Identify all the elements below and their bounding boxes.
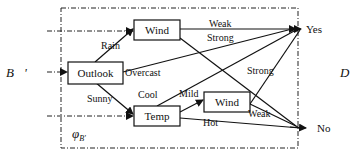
edge-label-rain: Rain [101,40,120,51]
edge-mild [180,100,203,112]
edge-label-strong-top: Strong [207,32,234,43]
edge-label-cool: Cool [138,89,158,100]
decision-tree-diagram: Outlook Wind Temp Wind Rain Overcast Sun… [0,0,359,158]
edge-label-sunny: Sunny [87,93,113,104]
node-temp-label: Temp [145,110,170,122]
outcome-yes: Yes [306,23,322,35]
output-symbol: D⃗ [339,65,359,80]
edge-label-weak-bottom: Weak [248,108,271,119]
edge-label-overcast: Overcast [125,67,161,78]
edge-label-mild: Mild [179,88,198,99]
node-outlook-label: Outlook [77,67,114,79]
edge-label-strong-bottom: Strong [247,65,274,76]
node-wind-top-label: Wind [145,24,169,36]
mapping-symbol: φB' [72,126,86,143]
edge-label-hot: Hot [203,117,218,128]
outcome-no: No [317,122,331,134]
edge-label-weak-top: Weak [209,18,232,29]
node-wind-bottom-label: Wind [215,96,239,108]
edge-strong-top [180,38,296,126]
input-symbol: B⃗' [6,65,27,80]
